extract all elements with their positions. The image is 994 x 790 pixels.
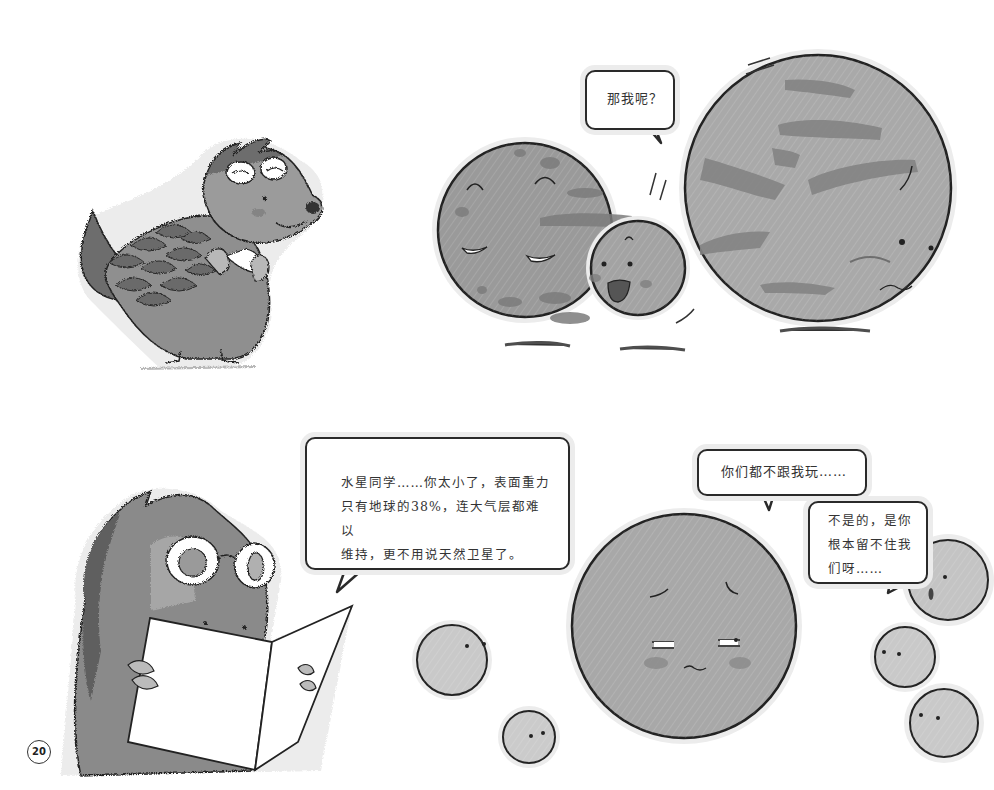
pangolin-character-top <box>77 138 322 368</box>
moon-left-upper <box>412 620 492 700</box>
speech-text: 水星同学……你太小了，表面重力 只有地球的38%，连大气层都难以 维持，更不用说… <box>341 475 550 562</box>
speech-bubble-reading: 水星同学……你太小了，表面重力 只有地球的38%，连大气层都难以 维持，更不用说… <box>305 437 570 570</box>
speech-bubble-planet: 你们都不跟我玩…… <box>697 449 867 496</box>
speech-bubble-moons: 不是的，是你 根本留不住我 们呀…… <box>808 501 928 584</box>
moon-right-lower <box>904 683 984 763</box>
speech-text: 那我呢？ <box>607 91 663 106</box>
moon-right-middle <box>870 622 940 692</box>
page-number: 20 <box>27 740 51 764</box>
moon-left-lower <box>498 706 560 768</box>
speech-text: 不是的，是你 根本留不住我 们呀…… <box>828 513 912 576</box>
speech-bubble-top: 那我呢？ <box>585 70 675 130</box>
planet-mercury-sad <box>566 508 802 744</box>
comic-illustration <box>0 0 994 790</box>
speech-text: 你们都不跟我玩…… <box>721 464 847 479</box>
planet-mars-large <box>679 49 957 331</box>
